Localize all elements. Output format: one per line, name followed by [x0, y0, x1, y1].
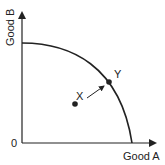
- ppf-diagram: X Y 0 Good A Good B: [0, 0, 165, 165]
- point-x: [72, 101, 78, 107]
- point-x-label: X: [76, 90, 84, 102]
- shift-arrow: [87, 86, 104, 98]
- x-axis-label: Good A: [123, 150, 160, 162]
- y-axis-label: Good B: [4, 9, 16, 46]
- point-y: [106, 79, 112, 85]
- point-y-label: Y: [114, 68, 122, 80]
- origin-label: 0: [11, 137, 17, 149]
